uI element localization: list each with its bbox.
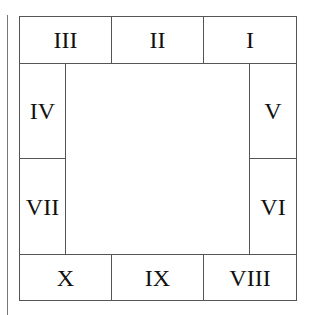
cell-III: III [19, 16, 112, 64]
cell-VII: VII [19, 158, 66, 255]
cell-label: VI [260, 195, 285, 219]
cell-label: VIII [229, 266, 270, 290]
cell-V: V [249, 63, 297, 159]
cell-II: II [111, 16, 204, 64]
center-area [66, 64, 249, 254]
cell-label: X [57, 266, 74, 290]
cell-label: III [54, 28, 78, 52]
cell-label: I [246, 28, 254, 52]
cell-IV: IV [19, 63, 66, 159]
cell-label: IX [145, 266, 170, 290]
cell-label: II [150, 28, 166, 52]
cell-I: I [203, 16, 297, 64]
cell-VIII: VIII [203, 254, 297, 301]
left-margin-rule [7, 15, 8, 315]
cell-VI: VI [249, 158, 297, 255]
cell-label: VII [26, 195, 59, 219]
cell-label: V [264, 99, 281, 123]
cell-IX: IX [111, 254, 204, 301]
cell-label: IV [30, 99, 55, 123]
cell-X: X [19, 254, 112, 301]
